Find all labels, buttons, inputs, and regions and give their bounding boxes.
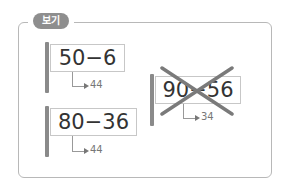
flag-pole-icon [45, 106, 49, 157]
flag-pole-icon [150, 74, 154, 126]
example-label: 보기 [33, 13, 69, 29]
expression: 80−36 [50, 108, 137, 136]
answer: 44 [90, 79, 103, 90]
expression: 50−6 [50, 44, 125, 72]
answer: 44 [90, 144, 103, 155]
arrow-icon [84, 148, 89, 154]
flag-pole-icon [45, 42, 49, 93]
arrow-icon [84, 83, 89, 89]
cross-out-icon [160, 66, 236, 116]
